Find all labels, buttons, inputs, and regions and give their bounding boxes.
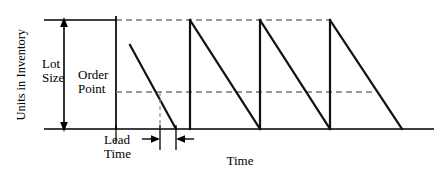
inventory-chart-svg bbox=[0, 0, 446, 177]
lead-time-label-line2: Time bbox=[104, 147, 146, 161]
depletion-slope-3 bbox=[260, 20, 330, 129]
y-axis-label: Units in Inventory bbox=[15, 15, 29, 135]
lot-size-arrow-head-down bbox=[60, 122, 68, 132]
lead-time-label-line1: Lead bbox=[104, 133, 146, 147]
lead-time-arrow-left-head bbox=[176, 135, 185, 143]
lot-size-label: Lot Size bbox=[42, 57, 76, 85]
depletion-slope-1 bbox=[130, 45, 176, 129]
depletion-slope-2 bbox=[190, 20, 260, 129]
x-axis-label: Time bbox=[210, 154, 270, 168]
order-point-label: Order Point bbox=[78, 68, 118, 96]
lot-size-label-line2: Size bbox=[42, 71, 76, 85]
inventory-sawtooth-figure: Units in Inventory Lot Size Order Point … bbox=[0, 0, 446, 177]
inventory-level-curve bbox=[130, 20, 402, 129]
lot-size-arrow-head-up bbox=[60, 17, 68, 27]
lot-size-label-line1: Lot bbox=[42, 57, 76, 71]
order-point-label-line1: Order bbox=[78, 68, 118, 82]
order-point-label-line2: Point bbox=[78, 82, 118, 96]
depletion-slope-4 bbox=[330, 20, 402, 129]
lead-time-label: Lead Time bbox=[104, 133, 146, 161]
lead-time-arrow-right-head bbox=[151, 135, 160, 143]
